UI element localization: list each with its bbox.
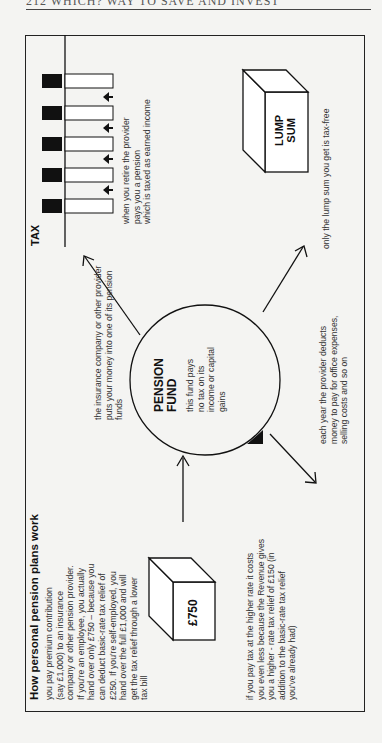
tax-bars	[42, 74, 113, 213]
charges-text: each year the provider deducts money to …	[318, 316, 350, 444]
provider-text: the insurance company or other provider …	[93, 266, 125, 420]
arrow-to-lump-sum-icon	[295, 246, 307, 257]
running-head: 212 WHICH? WAY TO SAVE AND INVEST	[26, 0, 371, 8]
charges-wedge-icon	[247, 430, 263, 444]
payment-box	[149, 558, 215, 640]
pension-text: when you retire the provider pays you a …	[121, 99, 153, 224]
lump-sum-label: LUMP SUM	[273, 115, 297, 146]
tax-label: TAX	[29, 225, 41, 246]
pension-fund-label: PENSION FUND this fund pays no tax on it…	[153, 347, 227, 412]
payment-amount: £750	[186, 599, 200, 626]
diagram-title: How personal pension plans work	[28, 514, 40, 700]
contribution-text: you pay premium contribution (say £1,000…	[44, 564, 150, 700]
higher-rate-text: if you pay tax at the higher rate it cos…	[245, 539, 298, 700]
header-rule	[26, 9, 371, 10]
diagram-canvas: How personal pension plans work you pay …	[25, 35, 365, 712]
lump-sum-text: only the lump sum you get is tax-free	[321, 109, 332, 249]
